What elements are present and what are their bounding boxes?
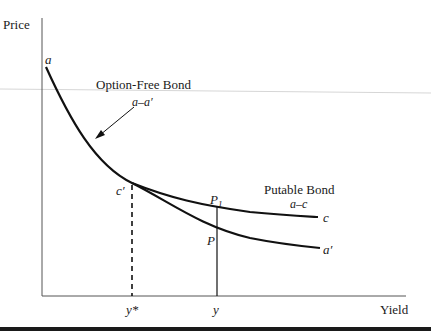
price-yield-diagram (0, 0, 431, 336)
p1-main: P (210, 192, 218, 207)
bottom-rule (0, 327, 431, 331)
y-star-label: y* (126, 303, 138, 316)
putable-title: Putable Bond (264, 183, 334, 196)
x-axis-label: Yield (380, 303, 408, 316)
arrow-head-icon (95, 130, 105, 139)
point-c-label: c (323, 211, 329, 224)
option-free-curve (46, 67, 320, 248)
putable-range: a–c (290, 198, 307, 210)
option-free-title: Option-Free Bond (96, 78, 191, 91)
guide-line (0, 89, 431, 93)
y-axis-label: Price (3, 18, 30, 31)
point-a-prime-label: a′ (323, 243, 332, 256)
point-p1-label: P1 (210, 193, 222, 209)
option-free-range: a–a′ (132, 96, 153, 108)
point-p-label: P (207, 234, 215, 247)
arrow-line (100, 107, 134, 135)
y-label: y (213, 303, 219, 316)
p1-subscript: 1 (218, 199, 223, 209)
point-a-label: a (45, 53, 52, 66)
point-c-prime-label: c′ (116, 184, 125, 197)
